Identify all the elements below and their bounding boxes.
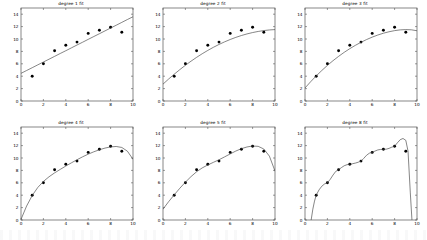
y-tick-label: 4 (300, 74, 303, 79)
data-point (195, 49, 198, 52)
data-point (98, 29, 101, 32)
y-tick-label: 10 (13, 37, 19, 42)
x-tick-label: 4 (348, 102, 351, 107)
fit-curve (311, 138, 412, 220)
y-tick-label: 0 (300, 99, 303, 104)
x-tick-label: 10 (272, 102, 278, 107)
axes-frame (305, 8, 417, 101)
fit-curve (21, 17, 133, 74)
fit-curve (305, 30, 417, 88)
y-tick-label: 12 (13, 143, 19, 148)
x-tick-label: 2 (326, 221, 329, 226)
x-tick-label: 0 (162, 102, 165, 107)
y-tick-label: 10 (297, 37, 303, 42)
x-tick-label: 2 (42, 221, 45, 226)
y-tick-label: 2 (300, 205, 303, 210)
x-tick-label: 0 (20, 221, 23, 226)
axes: 024681012140246810 (0, 119, 142, 238)
fit-curve (163, 30, 275, 85)
data-point (206, 44, 209, 47)
x-tick-label: 8 (109, 221, 112, 226)
x-tick-label: 4 (348, 221, 351, 226)
data-point (382, 29, 385, 32)
y-tick-label: 8 (300, 168, 303, 173)
x-tick-label: 10 (414, 102, 420, 107)
y-tick-label: 6 (16, 180, 19, 185)
y-tick-label: 0 (158, 99, 161, 104)
y-tick-label: 2 (158, 86, 161, 91)
x-tick-label: 6 (371, 221, 374, 226)
x-tick-label: 0 (304, 221, 307, 226)
y-tick-label: 4 (158, 74, 161, 79)
axes: 024681012140246810 (284, 0, 426, 119)
y-tick-label: 14 (155, 12, 161, 17)
y-tick-label: 6 (300, 180, 303, 185)
data-point (229, 32, 232, 35)
axes-frame (21, 8, 133, 101)
x-tick-label: 10 (130, 102, 136, 107)
x-tick-label: 10 (130, 221, 136, 226)
x-tick-label: 4 (64, 102, 67, 107)
axes-frame (21, 127, 133, 220)
x-tick-label: 6 (87, 102, 90, 107)
y-tick-label: 2 (16, 86, 19, 91)
subplot-degree-3-fit: degree 3 fit024681012140246810 (284, 0, 426, 119)
y-tick-label: 14 (155, 131, 161, 136)
y-tick-label: 4 (300, 193, 303, 198)
y-tick-label: 0 (16, 99, 19, 104)
x-tick-label: 0 (162, 221, 165, 226)
y-tick-label: 8 (158, 168, 161, 173)
data-point (251, 26, 254, 29)
y-tick-label: 12 (155, 143, 161, 148)
data-point (404, 31, 407, 34)
data-point (371, 32, 374, 35)
subplot-degree-1-fit: degree 1 fit024681012140246810 (0, 0, 142, 119)
y-tick-label: 4 (158, 193, 161, 198)
x-tick-label: 2 (184, 221, 187, 226)
x-tick-label: 4 (64, 221, 67, 226)
y-tick-label: 12 (297, 143, 303, 148)
subplot-degree-8-fit: degree 8 fit024681012140246810 (284, 119, 426, 238)
y-tick-label: 6 (300, 61, 303, 66)
x-tick-label: 4 (206, 221, 209, 226)
data-point (262, 31, 265, 34)
x-tick-label: 8 (109, 102, 112, 107)
x-tick-label: 6 (229, 221, 232, 226)
data-point (53, 168, 56, 171)
axes: 024681012140246810 (142, 0, 284, 119)
x-tick-label: 2 (42, 102, 45, 107)
y-tick-label: 2 (300, 86, 303, 91)
x-tick-label: 0 (304, 102, 307, 107)
x-tick-label: 8 (393, 221, 396, 226)
x-tick-label: 8 (251, 221, 254, 226)
data-point (393, 26, 396, 29)
y-tick-label: 14 (297, 12, 303, 17)
x-tick-label: 6 (371, 102, 374, 107)
y-tick-label: 10 (13, 156, 19, 161)
polynomial-fit-figure: degree 1 fit024681012140246810degree 2 f… (0, 0, 427, 238)
x-tick-label: 2 (326, 102, 329, 107)
fit-curve (21, 146, 133, 219)
data-point (240, 29, 243, 32)
data-point (53, 49, 56, 52)
x-tick-label: 8 (393, 102, 396, 107)
data-point (31, 75, 34, 78)
y-tick-label: 6 (158, 61, 161, 66)
data-point (404, 150, 407, 153)
y-tick-label: 10 (155, 156, 161, 161)
y-tick-label: 14 (13, 131, 19, 136)
axes-frame (163, 127, 275, 220)
subplot-degree-4-fit: degree 4 fit024681012140246810 (0, 119, 142, 238)
x-tick-label: 6 (87, 221, 90, 226)
y-tick-label: 8 (16, 168, 19, 173)
y-tick-label: 6 (158, 180, 161, 185)
y-tick-label: 0 (16, 218, 19, 223)
y-tick-label: 10 (297, 156, 303, 161)
x-tick-label: 10 (414, 221, 420, 226)
data-point (76, 41, 79, 44)
x-tick-label: 2 (184, 102, 187, 107)
y-tick-label: 8 (16, 49, 19, 54)
y-tick-label: 0 (158, 218, 161, 223)
axes-frame (163, 8, 275, 101)
x-tick-label: 6 (229, 102, 232, 107)
